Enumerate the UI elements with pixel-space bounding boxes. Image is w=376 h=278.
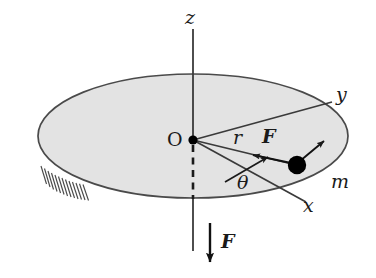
- physics-diagram-figure: z y x O r F θ m F: [0, 0, 376, 278]
- origin-dot: [188, 135, 197, 144]
- x-axis-label: x: [303, 196, 314, 215]
- z-axis-label: z: [185, 8, 195, 27]
- y-axis-label: y: [336, 85, 347, 104]
- origin-label: O: [167, 130, 183, 149]
- mass-label: m: [331, 172, 349, 191]
- force-vertical-label: F: [221, 232, 235, 251]
- mass-particle: [288, 156, 306, 174]
- diagram-canvas: [0, 0, 376, 278]
- angle-theta-label: θ: [237, 173, 248, 192]
- force-in-plane-label: F: [262, 127, 276, 146]
- radius-label: r: [233, 128, 242, 147]
